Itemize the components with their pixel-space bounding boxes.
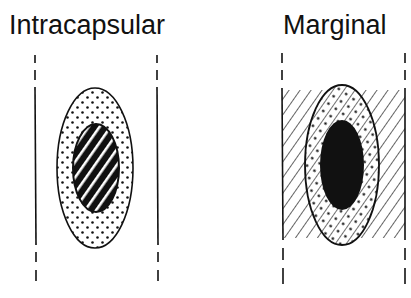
diagram-canvas (0, 0, 411, 298)
left-boundary-line (35, 55, 36, 281)
intracapsular-panel (35, 55, 158, 281)
lesion-core (73, 124, 119, 212)
lesion-core (320, 120, 364, 210)
left-boundary-line (282, 53, 283, 284)
marginal-panel (282, 53, 405, 284)
right-boundary-line (157, 55, 158, 281)
